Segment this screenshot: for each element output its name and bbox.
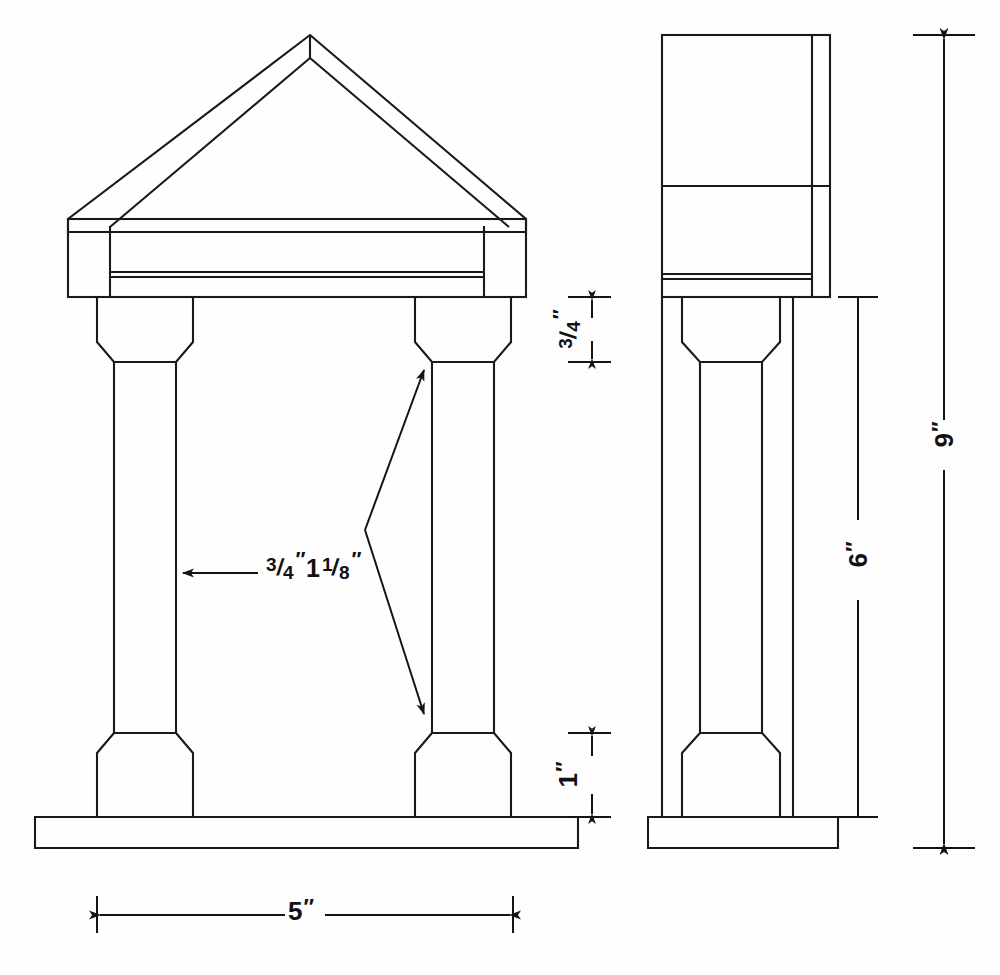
dim-value: 1 — [553, 773, 583, 787]
dim-numerator: 3 — [266, 555, 277, 574]
dim-unit: ″ — [549, 310, 570, 319]
dim-value: 5 — [288, 896, 302, 926]
column-left — [97, 297, 193, 817]
dimension-lines — [97, 35, 975, 933]
dim-label-entablature-height: 3/4 ″ — [557, 302, 580, 358]
dim-value: 9 — [929, 433, 959, 447]
dim-whole: 1 — [306, 556, 320, 581]
dim-numerator: 3 — [556, 338, 575, 349]
dim-unit: ″ — [841, 543, 866, 553]
dim-label-base-height: 1″ — [555, 747, 581, 803]
dim-label-column-height: 6″ — [845, 527, 871, 583]
pediment-roof — [68, 35, 526, 232]
dim-label-overall-width: 5″ — [288, 898, 313, 924]
dim-unit: ″ — [351, 548, 360, 569]
dim-denominator: 4 — [283, 563, 294, 582]
column-right — [415, 297, 511, 817]
dim-unit: ″ — [927, 423, 952, 433]
drawing-sheet: 3/4 ″ 1″ 3/4 ″ 1 1/8 ″ 5″ 6″ — [0, 0, 1000, 975]
dim-unit: ″ — [296, 548, 305, 569]
dim-unit: ″ — [551, 763, 576, 773]
dim-unit: ″ — [303, 894, 313, 919]
side-elevation-view — [648, 35, 838, 848]
technical-drawing-canvas — [0, 0, 1000, 975]
dim-denominator: 8 — [339, 563, 350, 582]
dim-label-capital-width: 1 1/8 ″ — [306, 556, 361, 581]
base-platform-front — [35, 817, 578, 848]
front-elevation-view — [35, 35, 578, 848]
base-platform-side — [648, 817, 838, 848]
dim-value: 6 — [843, 553, 873, 567]
dim-label-overall-height: 9″ — [931, 407, 957, 463]
side-upper-block — [662, 35, 830, 297]
side-column — [662, 297, 793, 817]
dim-denominator: 4 — [564, 321, 583, 332]
dim-leader-one-and-one-eighth — [365, 370, 424, 714]
entablature — [68, 219, 526, 297]
figure-caption — [0, 965, 1000, 975]
dim-label-column-width: 3/4 ″ — [266, 556, 305, 579]
